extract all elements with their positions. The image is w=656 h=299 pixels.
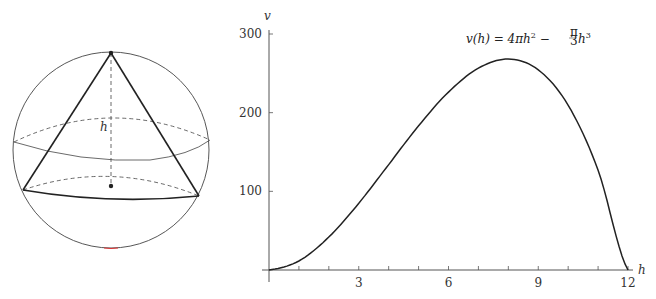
x-tick-label: 9 [534, 276, 542, 290]
cone-side-right [111, 53, 199, 196]
cone-base-front [23, 190, 199, 199]
x-tick-label: 12 [620, 276, 635, 290]
y-tick-label: 300 [239, 27, 262, 41]
svg-text:h3: h3 [578, 31, 591, 46]
x-tick-label: 3 [355, 276, 363, 290]
base-center-point [109, 184, 113, 188]
plot: 36912 100200300 h v v(h) = 4πh2 − π 3 h3 [239, 9, 646, 290]
y-ticks: 100200300 [239, 27, 273, 198]
v-of-h-curve [269, 59, 628, 270]
equator-back [14, 118, 210, 142]
height-label: h [100, 120, 108, 134]
sphere-bottom-accent [104, 248, 118, 249]
y-tick-label: 100 [239, 184, 262, 198]
y-tick-label: 200 [239, 106, 262, 120]
x-tick-label: 6 [445, 276, 453, 290]
svg-text:v(h) = 4πh2 −: v(h) = 4πh2 − [466, 31, 550, 46]
formula-annotation: v(h) = 4πh2 − π 3 h3 [466, 25, 591, 48]
sphere-cone-diagram [13, 51, 210, 249]
svg-text:3: 3 [570, 34, 578, 48]
x-axis-label: h [638, 263, 646, 277]
apex-point [109, 51, 113, 55]
figure: h 36912 100200300 h v v(h) = 4πh2 − π 3 … [0, 0, 656, 299]
y-axis-label: v [264, 9, 271, 23]
cone-side-left [23, 53, 111, 190]
